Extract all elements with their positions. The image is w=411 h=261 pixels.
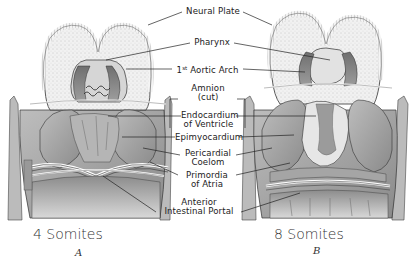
intestinal-portal-text: Intestinal Portal bbox=[156, 207, 242, 216]
panel-b-embryo bbox=[242, 13, 408, 220]
label-aortic-arch: 1st Aortic Arch bbox=[172, 64, 243, 75]
panel-letter-b: B bbox=[313, 245, 320, 256]
label-pericardial-coelom: Pericardial Coelom bbox=[180, 149, 236, 167]
label-primordia-atria: Primordia of Atria bbox=[178, 171, 236, 189]
label-pharynx: Pharynx bbox=[190, 38, 234, 47]
caption-panel-a: 4 Somites bbox=[33, 226, 103, 242]
label-epimyocardium: Epimyocardium bbox=[175, 133, 239, 142]
label-anterior-intestinal-portal: Anterior Intestinal Portal bbox=[156, 198, 242, 216]
label-endocardium: Endocardium of Ventricle bbox=[181, 111, 236, 129]
label-amnion-cut: Amnion (cut) bbox=[180, 84, 236, 102]
caption-panel-b: 8 Somites bbox=[274, 226, 344, 242]
panel-letter-a: A bbox=[75, 247, 82, 258]
coelom-text: Coelom bbox=[180, 158, 236, 167]
aortic-arch-text: Aortic Arch bbox=[190, 65, 238, 75]
panel-a-embryo bbox=[8, 25, 172, 220]
pharynx-text: Pharynx bbox=[194, 37, 230, 47]
label-neural-plate: Neural Plate bbox=[183, 7, 243, 16]
amnion-cut-text: (cut) bbox=[180, 93, 236, 102]
epimyocardium-text: Epimyocardium bbox=[175, 132, 243, 142]
of-atria-text: of Atria bbox=[178, 180, 236, 189]
aortic-arch-superscript: st bbox=[182, 65, 187, 71]
of-ventricle-text: of Ventricle bbox=[181, 120, 236, 129]
embryo-heart-figure: Neural Plate Pharynx 1st Aortic Arch Amn… bbox=[0, 0, 411, 261]
neural-plate-text: Neural Plate bbox=[186, 6, 240, 16]
